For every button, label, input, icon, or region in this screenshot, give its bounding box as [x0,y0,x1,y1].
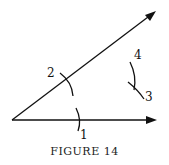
arrowheads [145,11,157,124]
angle-construction-diagram: 1 2 3 4 [0,0,169,165]
upper-arrow-icon [145,11,156,21]
arc-2 [60,73,73,96]
label-3: 3 [145,90,153,104]
label-2: 2 [47,66,55,80]
arc-3 [128,82,144,99]
lower-arrow-icon [146,116,157,124]
label-4: 4 [134,48,142,62]
upper-ray [12,14,152,120]
figure-14: 1 2 3 4 FIGURE 14 [0,0,169,165]
label-1: 1 [80,128,88,142]
figure-caption: FIGURE 14 [0,145,169,158]
